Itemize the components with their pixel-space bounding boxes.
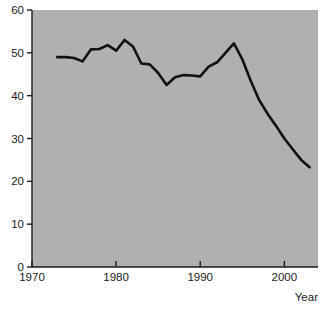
x-axis-title: Year (295, 291, 318, 303)
x-tick-label: 1980 (103, 271, 129, 283)
y-axis-tick-labels: 0102030405060 (11, 4, 24, 273)
y-tick-label: 60 (11, 4, 24, 16)
y-tick-label: 50 (11, 47, 24, 59)
y-tick-label: 40 (11, 90, 24, 102)
chart-container: 0102030405060 1970198019902000 Year (0, 0, 327, 314)
y-tick-label: 10 (11, 218, 24, 230)
y-tick-label: 30 (11, 133, 24, 145)
x-tick-label: 1990 (187, 271, 213, 283)
y-tick-label: 20 (11, 175, 24, 187)
plot-background (32, 10, 318, 267)
x-tick-label: 1970 (19, 271, 45, 283)
y-axis-ticks (27, 10, 32, 267)
line-chart: 0102030405060 1970198019902000 Year (0, 0, 327, 314)
x-tick-label: 2000 (272, 271, 298, 283)
x-axis-tick-labels: 1970198019902000 (19, 271, 297, 283)
